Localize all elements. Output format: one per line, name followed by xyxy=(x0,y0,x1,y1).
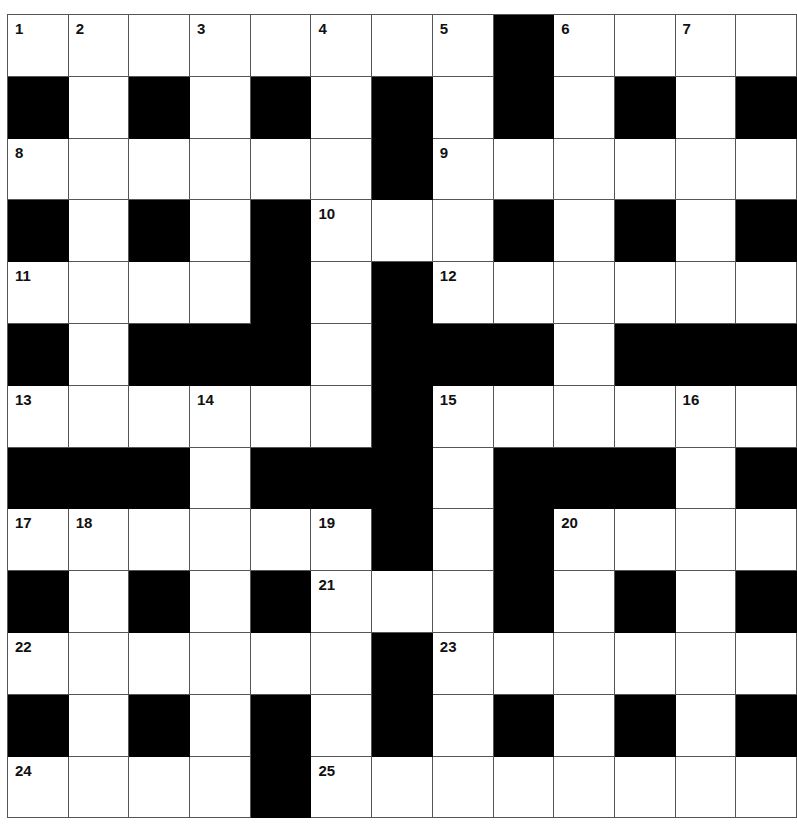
entry-cell[interactable] xyxy=(433,757,494,819)
entry-cell[interactable]: 23 xyxy=(433,633,494,695)
entry-cell[interactable] xyxy=(311,324,372,386)
entry-cell[interactable] xyxy=(494,633,555,695)
entry-cell[interactable] xyxy=(190,757,251,819)
entry-cell[interactable] xyxy=(554,757,615,819)
entry-cell[interactable] xyxy=(676,200,737,262)
entry-cell[interactable] xyxy=(676,77,737,139)
entry-cell[interactable]: 2 xyxy=(69,15,130,77)
entry-cell[interactable] xyxy=(129,139,190,201)
entry-cell[interactable] xyxy=(372,571,433,633)
entry-cell[interactable] xyxy=(554,139,615,201)
entry-cell[interactable] xyxy=(676,448,737,510)
entry-cell[interactable] xyxy=(69,324,130,386)
entry-cell[interactable]: 25 xyxy=(311,757,372,819)
entry-cell[interactable]: 11 xyxy=(8,262,69,324)
entry-cell[interactable] xyxy=(311,633,372,695)
entry-cell[interactable] xyxy=(69,386,130,448)
entry-cell[interactable]: 4 xyxy=(311,15,372,77)
entry-cell[interactable] xyxy=(311,262,372,324)
entry-cell[interactable]: 17 xyxy=(8,509,69,571)
entry-cell[interactable]: 20 xyxy=(554,509,615,571)
entry-cell[interactable]: 14 xyxy=(190,386,251,448)
entry-cell[interactable] xyxy=(433,509,494,571)
entry-cell[interactable] xyxy=(129,386,190,448)
entry-cell[interactable]: 13 xyxy=(8,386,69,448)
entry-cell[interactable] xyxy=(554,386,615,448)
entry-cell[interactable]: 7 xyxy=(676,15,737,77)
entry-cell[interactable] xyxy=(251,633,312,695)
entry-cell[interactable] xyxy=(190,262,251,324)
entry-cell[interactable] xyxy=(190,77,251,139)
entry-cell[interactable] xyxy=(251,386,312,448)
entry-cell[interactable] xyxy=(676,571,737,633)
entry-cell[interactable] xyxy=(251,15,312,77)
entry-cell[interactable] xyxy=(433,200,494,262)
entry-cell[interactable] xyxy=(494,386,555,448)
entry-cell[interactable] xyxy=(129,633,190,695)
entry-cell[interactable] xyxy=(554,324,615,386)
entry-cell[interactable] xyxy=(736,15,797,77)
entry-cell[interactable] xyxy=(69,139,130,201)
entry-cell[interactable] xyxy=(615,757,676,819)
entry-cell[interactable]: 19 xyxy=(311,509,372,571)
entry-cell[interactable] xyxy=(676,695,737,757)
entry-cell[interactable] xyxy=(494,757,555,819)
entry-cell[interactable] xyxy=(190,139,251,201)
entry-cell[interactable]: 1 xyxy=(8,15,69,77)
entry-cell[interactable] xyxy=(736,386,797,448)
entry-cell[interactable] xyxy=(433,695,494,757)
entry-cell[interactable] xyxy=(190,448,251,510)
entry-cell[interactable] xyxy=(69,77,130,139)
entry-cell[interactable] xyxy=(615,262,676,324)
entry-cell[interactable] xyxy=(676,633,737,695)
entry-cell[interactable] xyxy=(129,262,190,324)
entry-cell[interactable] xyxy=(129,15,190,77)
entry-cell[interactable] xyxy=(736,633,797,695)
entry-cell[interactable]: 5 xyxy=(433,15,494,77)
entry-cell[interactable] xyxy=(311,695,372,757)
entry-cell[interactable]: 6 xyxy=(554,15,615,77)
entry-cell[interactable] xyxy=(676,757,737,819)
entry-cell[interactable] xyxy=(554,77,615,139)
entry-cell[interactable] xyxy=(69,571,130,633)
entry-cell[interactable] xyxy=(615,139,676,201)
entry-cell[interactable] xyxy=(190,509,251,571)
entry-cell[interactable] xyxy=(311,77,372,139)
entry-cell[interactable] xyxy=(554,695,615,757)
entry-cell[interactable]: 8 xyxy=(8,139,69,201)
entry-cell[interactable] xyxy=(69,757,130,819)
entry-cell[interactable] xyxy=(494,262,555,324)
entry-cell[interactable] xyxy=(736,509,797,571)
entry-cell[interactable] xyxy=(69,200,130,262)
entry-cell[interactable] xyxy=(69,695,130,757)
entry-cell[interactable] xyxy=(615,15,676,77)
entry-cell[interactable] xyxy=(554,633,615,695)
entry-cell[interactable] xyxy=(433,448,494,510)
entry-cell[interactable]: 24 xyxy=(8,757,69,819)
entry-cell[interactable] xyxy=(190,571,251,633)
entry-cell[interactable]: 12 xyxy=(433,262,494,324)
entry-cell[interactable] xyxy=(129,509,190,571)
entry-cell[interactable] xyxy=(311,386,372,448)
entry-cell[interactable] xyxy=(676,262,737,324)
entry-cell[interactable] xyxy=(676,509,737,571)
entry-cell[interactable]: 10 xyxy=(311,200,372,262)
entry-cell[interactable] xyxy=(372,757,433,819)
entry-cell[interactable] xyxy=(736,262,797,324)
entry-cell[interactable] xyxy=(554,571,615,633)
entry-cell[interactable] xyxy=(554,200,615,262)
entry-cell[interactable]: 9 xyxy=(433,139,494,201)
entry-cell[interactable] xyxy=(311,139,372,201)
entry-cell[interactable] xyxy=(554,262,615,324)
entry-cell[interactable] xyxy=(190,633,251,695)
entry-cell[interactable]: 3 xyxy=(190,15,251,77)
entry-cell[interactable] xyxy=(372,15,433,77)
entry-cell[interactable]: 18 xyxy=(69,509,130,571)
entry-cell[interactable] xyxy=(433,571,494,633)
entry-cell[interactable] xyxy=(615,509,676,571)
entry-cell[interactable]: 21 xyxy=(311,571,372,633)
entry-cell[interactable] xyxy=(372,200,433,262)
entry-cell[interactable] xyxy=(251,139,312,201)
entry-cell[interactable]: 22 xyxy=(8,633,69,695)
entry-cell[interactable] xyxy=(736,139,797,201)
